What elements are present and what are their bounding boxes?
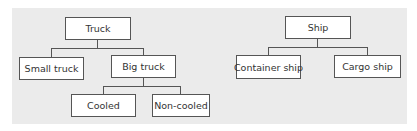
node-cooled: Cooled (71, 94, 136, 117)
node-label: Truck (85, 23, 110, 34)
node-label: Ship (308, 22, 329, 33)
node-label: Cooled (87, 100, 120, 111)
node-label: Container ship (234, 62, 303, 73)
node-container-ship: Container ship (236, 55, 301, 79)
node-big-truck: Big truck (111, 55, 176, 78)
node-ship: Ship (285, 16, 351, 39)
node-small-truck: Small truck (19, 57, 84, 80)
node-label: Non-cooled (154, 100, 208, 111)
node-non-cooled: Non-cooled (152, 94, 210, 117)
node-label: Big truck (122, 61, 165, 72)
node-cargo-ship: Cargo ship (334, 55, 401, 78)
node-label: Small truck (25, 63, 79, 74)
node-label: Cargo ship (342, 61, 393, 72)
node-truck: Truck (65, 17, 131, 40)
